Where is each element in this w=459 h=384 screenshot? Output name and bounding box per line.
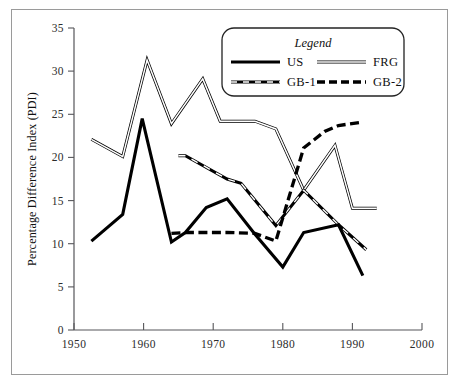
legend-label-gb1: GB-1: [287, 75, 316, 89]
chart-figure: 0 5 10 15 20 25 30 35 1950 1960 1970 198…: [0, 0, 459, 384]
legend-label-us: US: [287, 55, 304, 69]
x-tick-label-1980: 1980: [270, 338, 295, 350]
y-axis-ticks: [68, 28, 74, 330]
legend: Legend US FRG GB-1 GB-2: [222, 28, 404, 96]
y-tick-label-10: 10: [52, 238, 64, 250]
y-tick-label-15: 15: [52, 195, 64, 207]
legend-label-gb2: GB-2: [373, 75, 402, 89]
series-gb1-outline: [178, 156, 366, 250]
x-tick-label-2000: 2000: [410, 338, 435, 350]
y-tick-label-0: 0: [58, 324, 64, 336]
y-axis-title: Percentage Difference Index (PDI): [25, 92, 39, 266]
legend-label-frg: FRG: [373, 55, 398, 69]
y-tick-label-30: 30: [52, 65, 64, 77]
x-tick-label-1960: 1960: [131, 338, 156, 350]
y-tick-label-35: 35: [52, 22, 64, 34]
x-tick-label-1990: 1990: [340, 338, 365, 350]
y-axis-tick-labels: 0 5 10 15 20 25 30 35: [52, 22, 64, 336]
x-axis-ticks: [74, 323, 422, 330]
y-tick-label-5: 5: [58, 281, 64, 293]
line-chart: 0 5 10 15 20 25 30 35 1950 1960 1970 198…: [0, 0, 459, 384]
series-gb2: [171, 122, 362, 241]
series-us: [91, 119, 362, 276]
x-tick-label-1950: 1950: [62, 338, 87, 350]
y-tick-label-20: 20: [52, 151, 64, 163]
y-tick-label-25: 25: [52, 108, 64, 120]
series-gb1-core: [178, 156, 366, 250]
legend-title: Legend: [294, 36, 333, 50]
x-axis-tick-labels: 1950 1960 1970 1980 1990 2000: [62, 338, 435, 350]
x-tick-label-1970: 1970: [201, 338, 226, 350]
